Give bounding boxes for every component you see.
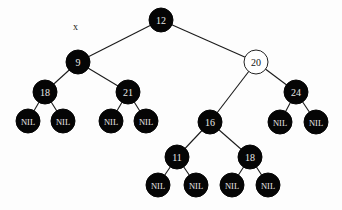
tree-node-20: 20 <box>244 50 268 74</box>
node-label: 20 <box>251 57 261 68</box>
nil-leaf-node: NIL <box>16 109 40 133</box>
tree-node-21: 21 <box>116 80 140 104</box>
nil-leaf-node: NIL <box>220 173 244 197</box>
x-pointer-label: x <box>73 21 78 32</box>
nil-leaf-node: NIL <box>184 173 208 197</box>
node-label: NIL <box>151 181 165 191</box>
nil-leaf-node: NIL <box>99 109 123 133</box>
nil-leaf-node: NIL <box>268 110 292 134</box>
node-label: NIL <box>139 117 153 127</box>
tree-node-16: 16 <box>198 110 222 134</box>
tree-node-11: 11 <box>165 145 189 169</box>
node-label: NIL <box>273 118 287 128</box>
node-label: 16 <box>205 117 215 128</box>
tree-node-18: 18 <box>33 80 57 104</box>
node-label: NIL <box>225 181 239 191</box>
nil-leaf-node: NIL <box>51 109 75 133</box>
node-label: 24 <box>291 87 301 98</box>
nil-leaf-node: NIL <box>256 173 280 197</box>
tree-svg: 12920182116241118NILNILNILNILNILNILNILNI… <box>0 0 342 210</box>
nil-leaf-node: NIL <box>134 109 158 133</box>
node-label: 18 <box>245 152 255 163</box>
nil-leaf-node: NIL <box>304 110 328 134</box>
node-label: 21 <box>123 87 133 98</box>
node-label: 11 <box>172 152 182 163</box>
node-label: 18 <box>40 87 50 98</box>
tree-diagram: 12920182116241118NILNILNILNILNILNILNILNI… <box>0 0 342 210</box>
node-label: NIL <box>189 181 203 191</box>
tree-node-24: 24 <box>284 80 308 104</box>
node-label: NIL <box>309 118 323 128</box>
node-label: NIL <box>21 117 35 127</box>
node-label: NIL <box>261 181 275 191</box>
node-label: 12 <box>156 15 166 26</box>
tree-node-9: 9 <box>66 50 90 74</box>
tree-edge <box>78 20 161 62</box>
node-label: NIL <box>104 117 118 127</box>
node-label: NIL <box>56 117 70 127</box>
tree-edge <box>161 20 256 62</box>
tree-node-18: 18 <box>238 145 262 169</box>
nil-leaf-node: NIL <box>146 173 170 197</box>
node-label: 9 <box>76 57 81 68</box>
tree-node-12: 12 <box>149 8 173 32</box>
nodes-layer: 12920182116241118NILNILNILNILNILNILNILNI… <box>16 8 328 197</box>
